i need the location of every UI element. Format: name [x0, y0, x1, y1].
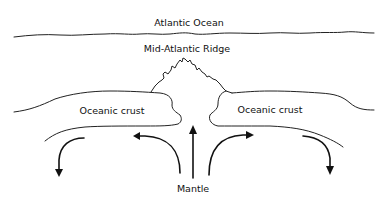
- outer-left-down-arrow: [55, 138, 84, 177]
- mid-atlantic-ridge-diagram: Atlantic Ocean Mid-Atlantic Ridge Oceani…: [0, 0, 385, 203]
- ridge-outline: [151, 58, 232, 93]
- mid-atlantic-ridge-label: Mid-Atlantic Ridge: [144, 43, 231, 54]
- inner-right-arrow: [209, 131, 254, 175]
- outer-right-down-arrow: [303, 136, 334, 175]
- inner-left-arrow: [133, 132, 180, 173]
- ocean-surface-line: [14, 32, 374, 37]
- right-oceanic-crust-label: Oceanic crust: [237, 104, 302, 115]
- atlantic-ocean-label: Atlantic Ocean: [154, 17, 224, 28]
- left-oceanic-crust-label: Oceanic crust: [79, 105, 144, 116]
- mantle-label: Mantle: [177, 183, 209, 194]
- right-crust-lower: [209, 91, 343, 147]
- center-up-arrow: [189, 125, 197, 178]
- left-crust-outline: [14, 91, 181, 141]
